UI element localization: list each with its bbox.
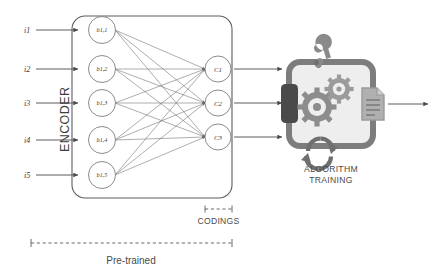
link-b14-c2 [115, 103, 205, 140]
gear-icon [325, 75, 354, 104]
input-label-i4: i4 [24, 136, 30, 145]
node-label-b14: b1,4 [97, 136, 108, 143]
node-label-b11: b1,1 [97, 26, 108, 33]
input-label-i3: i3 [24, 99, 30, 108]
link-b15-c2 [115, 103, 205, 175]
node-label-c1: C1 [214, 66, 222, 74]
pretrained-label: Pre-trained [106, 255, 155, 266]
input-item: i5 [24, 171, 78, 180]
algorithm-label-line1: ALGORITHM [304, 164, 358, 174]
node-label-c2: C2 [214, 100, 223, 108]
input-label-i2: i2 [24, 65, 30, 74]
hidden-node: b1,2 [89, 56, 116, 83]
connection-lines [115, 30, 205, 175]
codings-label: CODINGS [197, 216, 239, 226]
input-label-i1: i1 [24, 26, 30, 35]
input-item: i1 [24, 26, 78, 35]
link-b11-c1 [115, 30, 205, 69]
link-b15-c1 [115, 69, 205, 175]
link-b11-c2 [115, 30, 205, 103]
algorithm-label-line2: TRAINING [309, 175, 352, 185]
link-b14-c3 [115, 137, 205, 140]
codings-to-algorithm-arrows [234, 69, 282, 137]
input-item: i2 [24, 65, 78, 74]
input-label-i5: i5 [24, 171, 30, 180]
node-label-b15: b1,5 [97, 171, 108, 178]
encoder-label: ENCODER [58, 87, 72, 152]
pretrained-annotation: Pre-trained [31, 239, 232, 266]
codings-layer-group: C1 C2 C3 [205, 56, 231, 150]
node-label-c3: C3 [214, 134, 223, 142]
coding-node: C2 [205, 90, 231, 116]
diagram-canvas: i1 i2 i3 i4 i5 ENCODER [0, 0, 442, 274]
link-b11-c3 [115, 30, 205, 137]
node-label-b13: b1,3 [97, 99, 108, 106]
coding-node: C3 [205, 124, 231, 150]
hidden-layer-group: b1,1 b1,2 b1,3 b1,4 b1,5 [89, 17, 116, 189]
hidden-node: b1,4 [89, 127, 116, 154]
link-b14-c1 [115, 69, 205, 140]
node-label-b12: b1,2 [97, 65, 108, 72]
document-icon [362, 88, 384, 120]
input-port-icon [281, 84, 298, 123]
codings-annotation: CODINGS [197, 206, 239, 227]
hidden-node: b1,1 [89, 17, 116, 44]
hidden-node: b1,5 [89, 162, 116, 189]
algorithm-training-group: ALGORITHM TRAINING [281, 31, 428, 185]
link-b15-c3 [115, 137, 205, 175]
coding-node: C1 [205, 56, 231, 82]
hidden-node: b1,3 [89, 90, 116, 117]
link-b13-c3 [115, 103, 205, 137]
